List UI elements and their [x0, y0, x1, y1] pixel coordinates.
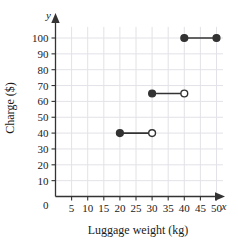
y-axis-tick-label: 40	[38, 127, 50, 139]
x-axis-tick-label: 45	[195, 202, 207, 214]
x-axis-tick-label: 15	[98, 202, 110, 214]
segment-end-marker-open	[181, 90, 188, 97]
segment-end-marker-closed	[213, 35, 220, 42]
segment-start-marker-closed	[149, 90, 156, 97]
x-axis-tick-label: 10	[82, 202, 94, 214]
y-axis-title: Charge ($)	[3, 82, 17, 133]
y-axis-tick-label: 70	[38, 80, 50, 92]
x-axis-tick-label: 30	[147, 202, 159, 214]
y-axis-tick-label: 30	[38, 143, 50, 155]
origin-label: 0	[43, 199, 49, 211]
step-function-chart: 5101520253035404550 10203040506070809010…	[0, 0, 238, 241]
y-axis-tick-label: 80	[38, 64, 50, 76]
x-axis-tick-label: 35	[163, 202, 175, 214]
x-axis-title: Luggage weight (kg)	[88, 223, 189, 237]
y-axis-tick-label: 20	[38, 159, 50, 171]
x-axis-variable-label: x	[221, 200, 227, 212]
y-axis-tick-label: 60	[38, 95, 50, 107]
x-axis-tick-label: 25	[131, 202, 143, 214]
x-axis-tick-label: 20	[114, 202, 126, 214]
segment-start-marker-closed	[117, 130, 124, 137]
y-axis-tick-label: 50	[38, 111, 50, 123]
x-axis-tick-labels: 5101520253035404550	[69, 202, 223, 214]
segment-start-marker-closed	[181, 35, 188, 42]
x-axis-tick-label: 5	[69, 202, 75, 214]
x-axis-tick-label: 40	[179, 202, 191, 214]
y-axis-tick-label: 100	[32, 32, 49, 44]
segment-end-marker-open	[149, 130, 156, 137]
y-axis-tick-label: 90	[38, 48, 50, 60]
y-axis-tick-label: 10	[38, 175, 50, 187]
chart-plot-area: 5101520253035404550 10203040506070809010…	[0, 0, 238, 241]
y-axis-variable-label: y	[45, 9, 51, 21]
